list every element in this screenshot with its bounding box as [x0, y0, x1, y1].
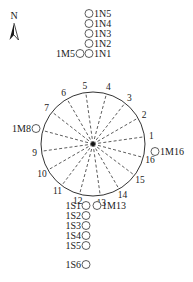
- point-circle-icon: [93, 202, 101, 210]
- radial-line-5: [86, 93, 93, 144]
- radial-line-3: [93, 103, 125, 144]
- radial-line-14: [93, 144, 119, 189]
- center-point: [91, 142, 95, 146]
- radial-line-11: [62, 144, 93, 186]
- point-label: 1M8: [12, 123, 31, 134]
- point-circle-icon: [82, 261, 90, 269]
- south-marker-column: 1S11S21S31S41S51S6: [65, 200, 90, 270]
- radial-point-label: 10: [37, 169, 47, 179]
- point-circle-icon: [85, 10, 93, 18]
- radial-line-7: [52, 112, 93, 144]
- radial-point-label: 16: [145, 155, 155, 165]
- monitoring-point: 1S6: [65, 259, 90, 270]
- point-label: 1M13: [102, 200, 126, 211]
- monitoring-layout-diagram: N 12345678910111213141516 1N51N41N31N21N…: [0, 0, 193, 282]
- monitoring-point: 1M5: [56, 48, 84, 59]
- radial-point-label: 7: [44, 103, 49, 113]
- radial-point-label: 5: [82, 81, 87, 91]
- radial-line-13: [93, 144, 100, 195]
- radial-line-15: [93, 144, 135, 175]
- north-arrow: N: [10, 10, 19, 40]
- point-label: 1M5: [56, 48, 75, 59]
- monitoring-point: 1M8: [12, 123, 40, 134]
- point-circle-icon: [82, 242, 90, 250]
- radial-line-10: [48, 144, 93, 170]
- point-label: 1M16: [160, 146, 184, 157]
- point-circle-icon: [32, 125, 40, 133]
- radial-point-label: 2: [142, 110, 147, 120]
- radial-point-label: 1: [149, 131, 154, 141]
- monitoring-point: 1M16: [151, 146, 184, 157]
- north-label: N: [10, 10, 17, 21]
- monitoring-point: 1M13: [93, 200, 126, 211]
- point-label: 1S5: [65, 240, 81, 251]
- shaft-circle: 12345678910111213141516: [32, 81, 155, 208]
- radial-line-8: [43, 131, 93, 144]
- point-circle-icon: [82, 212, 90, 220]
- radial-point-label: 15: [135, 175, 145, 185]
- radial-line-6: [67, 99, 93, 144]
- radial-line-12: [80, 144, 93, 194]
- radial-line-2: [93, 118, 138, 144]
- point-circle-icon: [85, 20, 93, 28]
- radial-line-4: [93, 94, 106, 144]
- point-circle-icon: [151, 148, 159, 156]
- radial-point-label: 6: [61, 88, 66, 98]
- point-circle-icon: [85, 30, 93, 38]
- point-circle-icon: [82, 222, 90, 230]
- radial-line-16: [93, 144, 143, 157]
- monitoring-point: 1N1: [85, 48, 111, 59]
- side-markers: 1M51M81M161M13: [12, 48, 184, 211]
- radial-point-label: 4: [106, 82, 111, 92]
- radial-line-1: [93, 137, 144, 144]
- point-label: 1N1: [94, 48, 111, 59]
- point-circle-icon: [82, 202, 90, 210]
- north-arrow-icon: [10, 23, 15, 40]
- radial-line-9: [42, 144, 93, 151]
- radial-point-label: 9: [32, 148, 37, 158]
- radial-point-label: 3: [127, 93, 132, 103]
- monitoring-point: 1S5: [65, 240, 90, 251]
- point-circle-icon: [76, 50, 84, 58]
- point-circle-icon: [82, 232, 90, 240]
- point-circle-icon: [85, 50, 93, 58]
- point-label: 1S6: [65, 259, 81, 270]
- north-marker-column: 1N51N41N31N21N1: [85, 8, 111, 59]
- radial-point-label: 14: [118, 190, 128, 200]
- radial-point-label: 11: [53, 186, 62, 196]
- point-circle-icon: [85, 40, 93, 48]
